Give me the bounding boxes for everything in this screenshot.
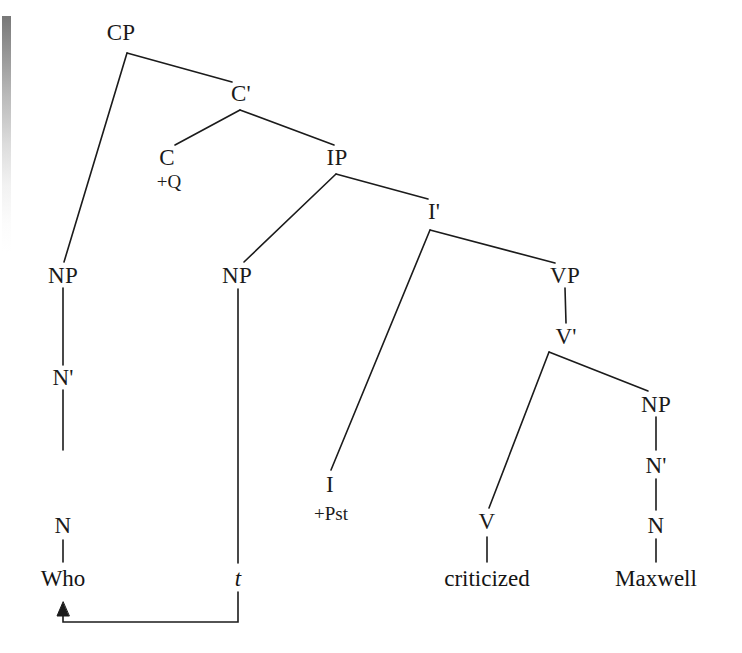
node-c-feature: +Q xyxy=(157,172,181,191)
node-i: I xyxy=(326,473,334,496)
node-v: V xyxy=(479,510,496,533)
node-ip: IP xyxy=(327,146,348,169)
terminal-trace: t xyxy=(235,567,241,590)
wh-movement-arrowhead xyxy=(57,602,69,616)
wh-movement-arrow-path xyxy=(63,592,238,622)
branch-cbar-to-ip xyxy=(240,110,334,145)
branch-cp-to-cbar xyxy=(127,53,232,82)
node-np-spec-ip: NP xyxy=(222,264,252,287)
syntax-tree-figure: CP C' C +Q IP I' NP N' N NP I +Pst VP V'… xyxy=(0,0,742,653)
branch-cp-to-np-spec xyxy=(64,53,127,262)
node-nbar-object: N' xyxy=(645,454,666,477)
branch-vbar-to-v xyxy=(489,352,549,508)
terminal-who: Who xyxy=(41,567,86,590)
branch-ibar-to-vp xyxy=(430,230,555,263)
branch-ibar-to-i xyxy=(331,230,430,470)
node-c: C xyxy=(159,146,175,169)
terminal-criticized: criticized xyxy=(444,567,530,590)
node-n-spec-cp: N xyxy=(55,514,72,537)
node-i-feature: +Pst xyxy=(314,504,348,523)
node-np-spec-cp: NP xyxy=(48,264,78,287)
branch-cbar-to-c xyxy=(175,110,240,145)
node-np-object: NP xyxy=(641,393,671,416)
node-vp: VP xyxy=(550,264,580,287)
node-n-object: N xyxy=(648,514,665,537)
branch-vbar-to-np-object xyxy=(549,352,648,391)
branch-ip-to-ibar xyxy=(336,174,428,199)
node-ibar: I' xyxy=(428,200,440,223)
node-nbar-spec-cp: N' xyxy=(52,366,73,389)
branch-vp-to-vbar xyxy=(565,288,566,323)
page-scan-edge-shadow xyxy=(2,16,11,252)
node-cp: CP xyxy=(107,21,136,44)
terminal-maxwell: Maxwell xyxy=(615,567,697,590)
node-vbar: V' xyxy=(555,325,576,348)
node-cbar: C' xyxy=(231,82,251,105)
branch-ip-to-np-spec xyxy=(244,174,336,262)
tree-branch-lines xyxy=(0,0,742,653)
